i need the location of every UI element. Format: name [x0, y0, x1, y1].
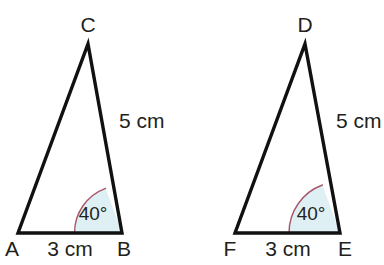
side-label-fe: 3 cm	[265, 237, 311, 260]
vertex-label-a: A	[5, 237, 19, 260]
side-label-bc: 5 cm	[119, 109, 165, 132]
angle-label-e: 40°	[297, 203, 326, 224]
vertex-label-b: B	[117, 237, 131, 260]
vertex-label-d: D	[297, 13, 312, 36]
vertex-label-f: F	[224, 237, 237, 260]
vertex-label-c: C	[80, 13, 95, 36]
geometry-diagram: C A B 5 cm 3 cm 40° D F E 5 cm 3 cm 40°	[0, 0, 384, 265]
triangle-def-group: D F E 5 cm 3 cm 40°	[224, 13, 382, 260]
side-label-de: 5 cm	[336, 109, 382, 132]
triangle-abc-group: C A B 5 cm 3 cm 40°	[5, 13, 165, 260]
angle-label-b: 40°	[79, 203, 108, 224]
side-label-ab: 3 cm	[47, 237, 93, 260]
vertex-label-e: E	[338, 237, 352, 260]
triangles-figure: C A B 5 cm 3 cm 40° D F E 5 cm 3 cm 40°	[0, 0, 384, 265]
